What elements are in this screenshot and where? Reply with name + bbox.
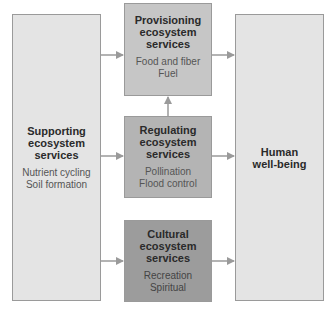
connector-arrows: [0, 0, 333, 311]
